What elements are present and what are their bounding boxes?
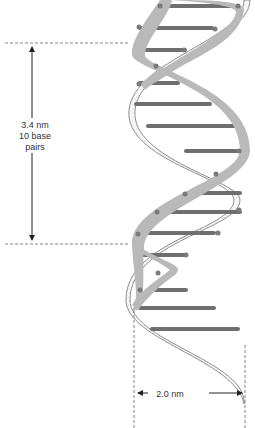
front-strand	[132, 0, 250, 310]
pitch-length-text: 3.4 nm	[8, 120, 62, 131]
helix-width-label: 2.0 nm	[148, 389, 192, 400]
pitch-basepairs-text: 10 base pairs	[8, 131, 62, 153]
dna-helix-diagram	[0, 0, 255, 428]
helix-pitch-label: 3.4 nm 10 base pairs	[8, 120, 62, 153]
guide-lines	[5, 43, 245, 428]
